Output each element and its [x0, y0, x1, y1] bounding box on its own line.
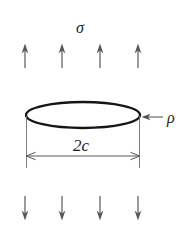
top-load-arrow-group: [22, 44, 142, 69]
crack-diagram-svg: σ ρ: [0, 0, 185, 230]
crack-tip-radius-label: ρ: [166, 109, 175, 127]
bottom-load-arrow-group: [22, 196, 142, 221]
remote-stress-label-top: σ: [76, 19, 85, 36]
crack-diameter-label: 2c: [73, 136, 90, 155]
top-load-arrow-3: [97, 44, 104, 69]
penny-crack-ellipse: [26, 102, 140, 128]
bottom-load-arrow-3: [97, 196, 104, 221]
bottom-load-arrow-4: [135, 196, 142, 221]
top-load-arrow-4: [135, 44, 142, 69]
top-load-arrow-1: [22, 44, 29, 69]
figure-container: σ ρ: [0, 0, 185, 230]
crack-tip-radius-leader: [142, 114, 164, 121]
bottom-load-arrow-2: [59, 196, 66, 221]
top-load-arrow-2: [59, 44, 66, 69]
bottom-load-arrow-1: [22, 196, 29, 221]
